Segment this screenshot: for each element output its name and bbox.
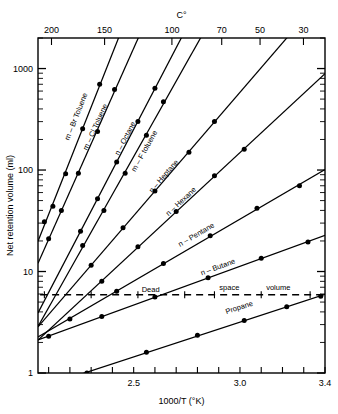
data-point	[97, 82, 102, 87]
data-point	[212, 173, 217, 178]
series-line	[38, 0, 325, 313]
data-point	[135, 119, 140, 124]
series-label: m – Cl Toluene	[81, 102, 109, 151]
data-point	[208, 233, 213, 238]
data-point	[242, 147, 247, 152]
data-point	[144, 350, 149, 355]
chart-figure: 11010010002.53.03.4200150100705030C°1000…	[0, 0, 338, 414]
top-tick-label: 150	[97, 25, 112, 35]
data-point	[195, 333, 200, 338]
dead-space-annotation: Dead	[142, 285, 160, 294]
data-point	[67, 317, 72, 322]
y-tick-label: 1	[28, 368, 33, 378]
dead-space-annotation: space	[219, 283, 239, 292]
data-point	[99, 279, 104, 284]
series-label: n – Hexane	[164, 185, 198, 218]
series-layer: m – Br Toluenem – Cl Toluenen – Octanem …	[38, 0, 325, 388]
data-point	[80, 126, 85, 131]
data-point	[76, 171, 81, 176]
dead-space-annotation: volume	[266, 283, 290, 292]
data-point	[46, 236, 51, 241]
top-tick-label: 100	[164, 25, 179, 35]
data-point	[84, 371, 89, 376]
series-label: Propane	[224, 299, 254, 316]
data-point	[297, 183, 302, 188]
x-tick-label: 3.4	[319, 378, 332, 388]
data-point	[80, 243, 85, 248]
retention-volume-chart: 11010010002.53.03.4200150100705030C°1000…	[0, 0, 338, 414]
data-point	[259, 256, 264, 261]
data-point	[284, 304, 289, 309]
data-point	[95, 196, 100, 201]
top-tick-label: 30	[298, 25, 308, 35]
data-point	[212, 119, 217, 124]
data-point	[46, 334, 51, 339]
series-label: m – Br Toluene	[63, 91, 90, 141]
data-point	[161, 99, 166, 104]
data-point	[89, 263, 94, 268]
top-axis-title: C°	[176, 10, 186, 20]
top-tick-label: 50	[255, 25, 265, 35]
series-line	[38, 0, 325, 327]
data-point	[114, 289, 119, 294]
data-point	[114, 159, 119, 164]
series-line	[38, 294, 325, 388]
data-point	[63, 171, 68, 176]
series-label: n – Heptane	[147, 158, 180, 195]
data-point	[50, 204, 55, 209]
x-tick-label: 2.5	[127, 378, 140, 388]
data-point	[318, 294, 323, 299]
data-point	[152, 295, 157, 300]
data-point	[254, 206, 259, 211]
data-point	[305, 240, 310, 245]
data-point	[78, 229, 83, 234]
y-tick-label: 10	[23, 267, 33, 277]
top-tick-label: 200	[44, 25, 59, 35]
y-tick-label: 1000	[13, 64, 33, 74]
data-point	[242, 318, 247, 323]
data-point	[59, 208, 64, 213]
y-tick-label: 100	[18, 165, 33, 175]
x-axis-title: 1000/T (°K)	[159, 396, 205, 406]
x-tick-label: 3.0	[234, 378, 247, 388]
data-point	[123, 171, 128, 176]
data-point	[42, 219, 47, 224]
data-point	[161, 261, 166, 266]
data-point	[99, 314, 104, 319]
data-point	[186, 150, 191, 155]
data-point	[135, 244, 140, 249]
data-point	[101, 208, 106, 213]
data-point	[112, 87, 117, 92]
y-axis-title: Net retention volume (ml)	[5, 155, 15, 256]
data-point	[121, 225, 126, 230]
series-label: n – Octane	[113, 120, 138, 157]
data-point	[152, 86, 157, 91]
top-tick-label: 70	[217, 25, 227, 35]
